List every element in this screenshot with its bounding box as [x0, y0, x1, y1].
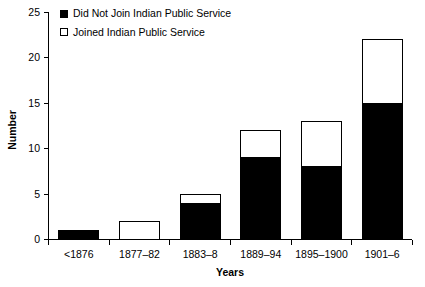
bar-group [302, 121, 342, 239]
bar-segment-joined [120, 221, 160, 239]
legend-swatch-joined [60, 29, 67, 36]
y-tick-label: 20 [28, 51, 40, 63]
x-tick-label: 1889–94 [240, 248, 281, 260]
bar-segment-did-not-join [180, 203, 220, 239]
x-tick-label: 1895–1900 [295, 248, 348, 260]
y-tick-label: 15 [28, 97, 40, 109]
bar-group [120, 221, 160, 239]
bar-group [241, 131, 281, 240]
legend-label-did-not-join: Did Not Join Indian Public Service [73, 7, 231, 19]
bar-segment-did-not-join [59, 230, 99, 239]
bar-segment-did-not-join [241, 158, 281, 240]
y-tick-label: 25 [28, 6, 40, 18]
x-tick-label: 1883–8 [183, 248, 218, 260]
legend-label-joined: Joined Indian Public Service [73, 26, 205, 38]
bar-segment-joined [302, 121, 342, 166]
bar-chart: 25 20 15 10 5 0 Number [0, 0, 425, 287]
y-axis-title: Number [6, 110, 18, 150]
x-axis-title: Years [216, 266, 244, 278]
legend-swatch-did-not-join [60, 10, 67, 17]
bar-segment-joined [362, 40, 402, 104]
bar-segment-joined [180, 194, 220, 203]
y-tick-label: 5 [34, 188, 40, 200]
chart-background [0, 0, 425, 287]
bar-group [362, 40, 402, 240]
bar-segment-joined [241, 131, 281, 158]
y-tick-label: 0 [34, 233, 40, 245]
x-tick-label: <1876 [64, 248, 94, 260]
bar-group [180, 194, 220, 239]
x-tick-label: 1877–82 [119, 248, 160, 260]
bar-segment-did-not-join [302, 167, 342, 240]
y-tick-label: 10 [28, 142, 40, 154]
bar-group [59, 230, 99, 239]
bar-segment-did-not-join [362, 103, 402, 239]
x-tick-label: 1901–6 [365, 248, 400, 260]
